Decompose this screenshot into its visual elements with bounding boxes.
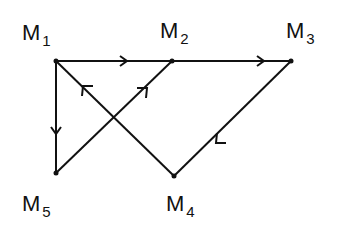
edge-m4-m1 [56,61,174,176]
node-label-m4: M4 [166,193,195,219]
node-dot-m5 [54,171,59,176]
node-label-m5: M5 [22,193,51,219]
node-label-m3: M3 [286,20,315,46]
node-label-m1: M1 [22,22,51,48]
node-dot-m1 [54,59,59,64]
edge-m3-m4 [174,61,291,176]
node-dot-m2 [170,59,175,64]
node-dot-m3 [289,59,294,64]
node-label-m2: M2 [160,20,189,46]
node-dot-m4 [172,174,177,179]
arrow-icon-m3-m4 [216,133,226,143]
